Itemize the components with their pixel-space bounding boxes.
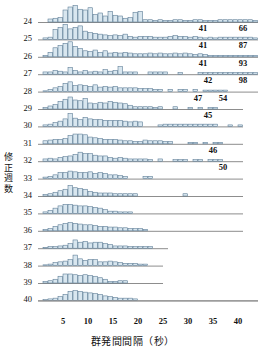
histogram-bar bbox=[83, 173, 88, 179]
histogram-bar bbox=[123, 158, 128, 161]
histogram-bar bbox=[183, 124, 188, 126]
histogram-bar bbox=[93, 104, 98, 109]
histogram-bar bbox=[113, 211, 118, 213]
histogram-bar bbox=[78, 26, 83, 40]
histogram-bar bbox=[43, 108, 48, 110]
histogram-bar bbox=[138, 159, 143, 161]
histogram-bar bbox=[63, 189, 68, 196]
histogram-bar bbox=[43, 72, 48, 74]
histogram-bar bbox=[58, 225, 63, 231]
histogram-bar bbox=[163, 72, 168, 74]
histogram-bar bbox=[198, 20, 203, 22]
histogram-bar bbox=[88, 192, 93, 197]
row-label-34: 34 bbox=[16, 190, 32, 200]
histogram-bar bbox=[83, 206, 88, 214]
histogram-bar bbox=[48, 72, 53, 74]
histogram-bar bbox=[98, 262, 103, 266]
histogram-bar bbox=[98, 208, 103, 213]
histogram-bar bbox=[53, 247, 58, 249]
histogram-bar bbox=[43, 141, 48, 144]
histogram-bar bbox=[58, 86, 63, 91]
histogram-bar bbox=[123, 18, 128, 22]
histogram-bar bbox=[73, 46, 78, 57]
histogram-bar bbox=[53, 175, 58, 179]
histogram-bar bbox=[138, 36, 143, 39]
histogram-bar bbox=[143, 264, 148, 266]
outlier-annotation: 87 bbox=[236, 40, 250, 50]
histogram-bar bbox=[128, 122, 133, 127]
histogram-bar bbox=[98, 13, 103, 22]
histogram-bar bbox=[88, 8, 93, 22]
histogram-bar bbox=[98, 242, 103, 248]
histogram-bar bbox=[158, 72, 163, 74]
histogram-bar bbox=[113, 227, 118, 231]
outlier-annotation: 50 bbox=[216, 162, 230, 172]
histogram-bar bbox=[198, 124, 203, 126]
histogram-bar bbox=[168, 54, 173, 57]
histogram-bar bbox=[98, 173, 103, 179]
histogram-bar bbox=[128, 263, 133, 265]
histogram-bar bbox=[88, 276, 93, 284]
histogram-bar bbox=[148, 53, 153, 57]
outlier-annotation: 42 bbox=[201, 75, 215, 85]
histogram-bar bbox=[53, 208, 58, 213]
histogram-bar bbox=[83, 275, 88, 283]
histogram-bar bbox=[123, 34, 128, 39]
histogram-bar bbox=[43, 247, 48, 248]
histogram-bar bbox=[88, 225, 93, 231]
histogram-bar bbox=[168, 142, 173, 144]
histogram-bar bbox=[63, 157, 68, 162]
histogram-bar bbox=[108, 139, 113, 144]
histogram-bar bbox=[53, 263, 58, 266]
histogram-bar bbox=[83, 10, 88, 22]
histogram-bar bbox=[103, 262, 108, 266]
histogram-bar bbox=[118, 281, 123, 283]
histogram-bar bbox=[78, 173, 83, 179]
histogram-bar bbox=[128, 229, 133, 231]
histogram-bar bbox=[88, 86, 93, 91]
histogram-bar bbox=[148, 141, 153, 144]
histogram-bar bbox=[83, 135, 88, 144]
histogram-bar bbox=[108, 193, 113, 196]
histogram-bar bbox=[118, 36, 123, 40]
histogram-bar bbox=[223, 55, 228, 57]
histogram-bar bbox=[198, 108, 203, 110]
histogram-bar bbox=[68, 42, 73, 57]
histogram-bar bbox=[73, 27, 78, 39]
histogram-bar bbox=[213, 124, 218, 126]
histogram-bar bbox=[78, 101, 83, 109]
histogram-bar bbox=[93, 226, 98, 231]
histogram-bar bbox=[88, 103, 93, 109]
histogram-bar bbox=[183, 53, 188, 57]
histogram-row-40 bbox=[38, 291, 258, 301]
histogram-bar bbox=[53, 279, 58, 283]
outlier-annotation: 41 bbox=[196, 40, 210, 50]
histogram-bar bbox=[208, 73, 213, 75]
histogram-bar bbox=[248, 37, 253, 39]
x-tick-label-35: 35 bbox=[206, 316, 220, 326]
histogram-bar bbox=[233, 73, 238, 75]
histogram-bar bbox=[128, 212, 133, 214]
histogram-bar bbox=[123, 104, 128, 109]
histogram-bar bbox=[178, 36, 183, 39]
histogram-bar bbox=[143, 140, 148, 144]
histogram-bar bbox=[218, 90, 223, 92]
histogram-bar bbox=[68, 244, 73, 249]
histogram-bar bbox=[43, 212, 48, 214]
histogram-bar bbox=[133, 72, 138, 74]
histogram-bar bbox=[118, 298, 123, 300]
histogram-bar bbox=[243, 55, 248, 57]
outlier-annotation: 54 bbox=[216, 93, 230, 103]
histogram-bar bbox=[43, 55, 48, 57]
histogram-bar bbox=[173, 36, 178, 40]
histogram-row-33 bbox=[38, 171, 243, 179]
histogram-bar bbox=[93, 192, 98, 196]
histogram-bar bbox=[103, 70, 108, 75]
histogram-bar bbox=[168, 89, 173, 91]
histogram-bar bbox=[208, 55, 213, 57]
histogram-bar bbox=[203, 73, 208, 75]
histogram-bar bbox=[83, 241, 88, 248]
histogram-bar bbox=[58, 206, 63, 214]
histogram-bar bbox=[133, 299, 138, 301]
histogram-bar bbox=[153, 89, 158, 91]
